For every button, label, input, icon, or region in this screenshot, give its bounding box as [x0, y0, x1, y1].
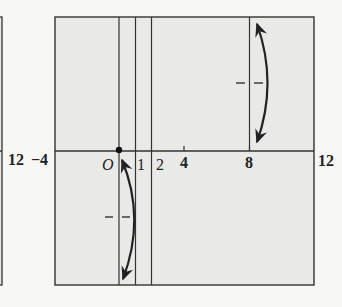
- axis-label-8: 8: [245, 155, 253, 171]
- axis-label-2: 2: [156, 157, 164, 173]
- axis-label-1: 1: [137, 157, 145, 173]
- graph-canvas: [0, 0, 342, 307]
- axis-label-minus-4: −4: [31, 152, 48, 168]
- graph-figure: 12 −4 O 1 2 4 8 12: [0, 0, 342, 307]
- left-panel: [0, 17, 2, 285]
- axis-label-origin: O: [102, 157, 114, 173]
- origin-point: [116, 147, 122, 153]
- axis-label-4: 4: [180, 155, 188, 171]
- left-panel-axis-label-12: 12: [8, 152, 24, 168]
- axis-label-12: 12: [318, 153, 334, 169]
